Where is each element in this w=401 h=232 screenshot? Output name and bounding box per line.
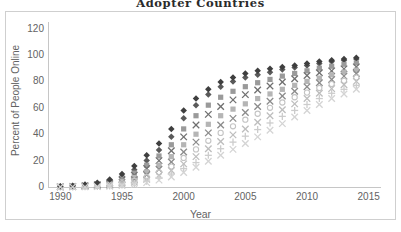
x-tick-label: 2015 [347,192,391,202]
x-tick-label: 1990 [38,192,82,202]
y-axis-title: Percent of People Online [10,26,21,176]
x-tick-label: 2005 [223,192,267,202]
x-tick-label: 1995 [100,192,144,202]
x-tick-label: 2000 [162,192,206,202]
x-axis-title: Year [0,208,401,220]
x-tick-label: 2010 [285,192,329,202]
chart-figure: Adopter Countries 020406080100120 199019… [0,0,401,232]
x-axis-tick-labels: 199019952000200520102015 [0,0,401,232]
